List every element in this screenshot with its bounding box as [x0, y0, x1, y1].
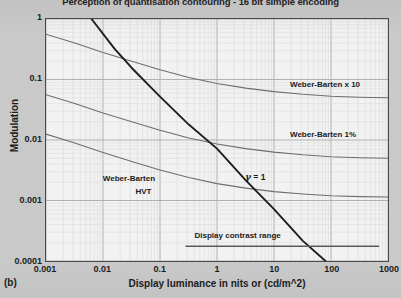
x-tick-label: 1	[214, 264, 219, 274]
y-tick-label: 0.001	[19, 195, 42, 205]
x-tick-label: 1000	[379, 264, 399, 274]
panel-caption: (b)	[4, 277, 17, 288]
annotation-weber-barten-hvt-line2: HVT	[135, 187, 151, 196]
y-tick-label: 0.1	[29, 73, 42, 83]
annotation-gamma-equals-one: γ = 1	[245, 172, 265, 182]
gamma-equation-text: = 1	[253, 172, 265, 182]
x-axis-label: Display luminance in nits or (cd/m^2)	[45, 278, 389, 289]
y-axis-ticks: 10.10.010.0010.0001	[0, 0, 42, 298]
data-curves	[46, 19, 388, 261]
chart-figure: Perception of quantisation contouring - …	[0, 0, 401, 298]
y-tick-label: 1	[37, 12, 42, 22]
annotation-weber-barten-x10: Weber-Barten x 10	[290, 80, 360, 89]
annotation-weber-barten-1pct: Weber-Barten 1%	[290, 130, 356, 139]
x-tick-label: 0.1	[153, 264, 166, 274]
y-axis-label: Modulation	[9, 76, 20, 176]
gamma-symbol: γ	[245, 172, 251, 182]
x-tick-label: 100	[324, 264, 339, 274]
x-tick-label: 10	[269, 264, 279, 274]
series-gamma-1	[92, 19, 326, 261]
y-tick-label: 0.01	[24, 134, 42, 144]
chart-title: Perception of quantisation contouring - …	[0, 0, 401, 7]
x-tick-label: 0.001	[34, 264, 57, 274]
x-tick-label: 0.01	[94, 264, 112, 274]
annotation-weber-barten-hvt-line1: Weber-Barten	[103, 174, 155, 183]
annotation-display-contrast-range: Display contrast range	[195, 231, 281, 240]
plot-area: Weber-Barten x 10 Weber-Barten 1% Weber-…	[45, 18, 389, 262]
